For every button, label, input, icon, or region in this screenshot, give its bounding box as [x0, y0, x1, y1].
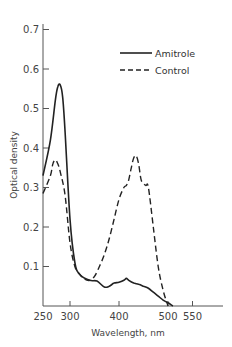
legend-item-control: Control	[120, 65, 189, 76]
x-axis-label: Wavelength, nm	[91, 328, 165, 338]
series-lines	[43, 84, 173, 306]
control-series-line	[43, 156, 168, 306]
legend-label: Amitrole	[155, 48, 195, 59]
x-tick-label: 300	[60, 311, 79, 322]
y-tick-label: 0.3	[23, 182, 39, 193]
y-tick-label: 0.2	[23, 222, 39, 233]
y-axis: 0.10.20.30.40.50.60.7 Optical density	[9, 24, 49, 306]
x-tick-label: 400	[109, 311, 128, 322]
legend: Amitrole Control	[120, 48, 195, 76]
y-tick-label: 0.6	[23, 64, 39, 75]
x-tick-label: 550	[183, 311, 202, 322]
y-tick-label: 0.4	[23, 143, 39, 154]
legend-item-amitrole: Amitrole	[120, 48, 195, 59]
amitrole-series-line	[43, 84, 173, 306]
y-tick-label: 0.7	[23, 24, 39, 35]
absorption-spectrum-chart: 0.10.20.30.40.50.60.7 Optical density 25…	[0, 0, 232, 347]
y-tick-label: 0.5	[23, 103, 39, 114]
legend-label: Control	[155, 65, 189, 76]
x-tick-label: 500	[158, 311, 177, 322]
x-axis: 250300400500550 Wavelength, nm	[33, 301, 223, 338]
y-axis-label: Optical density	[9, 131, 19, 199]
x-tick-label: 250	[33, 311, 52, 322]
y-tick-label: 0.1	[23, 261, 39, 272]
